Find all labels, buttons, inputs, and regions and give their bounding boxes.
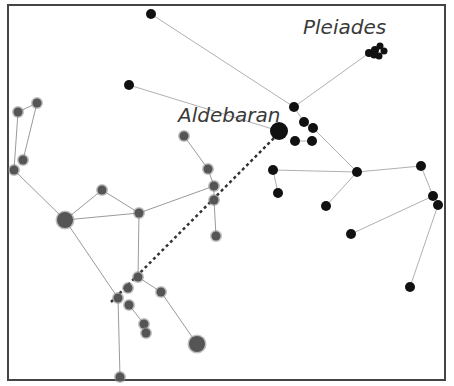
taurus-star-ain: [289, 102, 299, 112]
taurus-star-h1: [299, 117, 309, 127]
map-frame: [8, 5, 445, 380]
taurus-star-h2: [308, 123, 318, 133]
orion-star-o6: [135, 209, 144, 218]
taurus-star-c8: [346, 229, 356, 239]
orion-star-o4: [10, 166, 19, 175]
orion-star-o13: [125, 301, 134, 310]
orion-star-o12: [157, 288, 166, 297]
taurus-star-c5: [416, 161, 426, 171]
orion-star-o9: [210, 182, 219, 191]
aldebaran-label: Aldebaran: [176, 103, 280, 127]
taurus-star-c4: [321, 201, 331, 211]
taurus-star-t2: [124, 80, 134, 90]
orion-star-betelgeuse: [57, 212, 73, 228]
orion-star-o5: [98, 186, 107, 195]
taurus-star-c9: [405, 282, 415, 292]
taurus-star-c7: [433, 200, 443, 210]
orion-star-belt2: [124, 284, 133, 293]
taurus-star-p6: [371, 52, 378, 59]
orion-star-o2: [14, 108, 23, 117]
taurus-star-c2: [268, 165, 278, 175]
orion-star-o10: [210, 196, 219, 205]
taurus-star-c6: [428, 191, 438, 201]
orion-star-o8: [204, 165, 213, 174]
orion-star-o3: [19, 156, 28, 165]
orion-star-o7: [180, 132, 189, 141]
taurus-star-c3: [273, 188, 283, 198]
orion-star-belt3: [134, 273, 143, 282]
orion-star-o15: [142, 329, 151, 338]
orion-star-o11: [212, 232, 221, 241]
orion-star-o1: [33, 99, 42, 108]
taurus-star-p4: [381, 48, 388, 55]
star-map-diagram: Aldebaran Pleiades: [0, 0, 454, 386]
orion-star-belt1: [114, 294, 123, 303]
orion-star-o16: [116, 373, 125, 382]
taurus-star-h4: [307, 136, 317, 146]
taurus-star-t1: [146, 9, 156, 19]
taurus-star-h3: [290, 136, 300, 146]
pleiades-label: Pleiades: [303, 15, 386, 39]
taurus-star-c1: [352, 167, 362, 177]
orion-star-rigel: [189, 336, 205, 352]
